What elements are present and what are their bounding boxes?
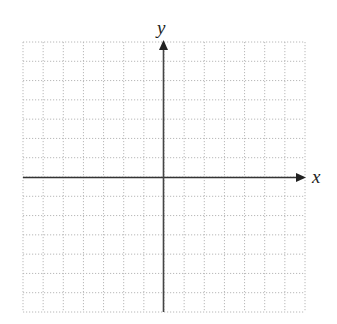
y-axis-arrow-icon: [159, 40, 168, 50]
coordinate-plane: x y: [0, 0, 337, 324]
x-axis-label: x: [311, 166, 321, 187]
y-axis-label: y: [155, 17, 166, 38]
